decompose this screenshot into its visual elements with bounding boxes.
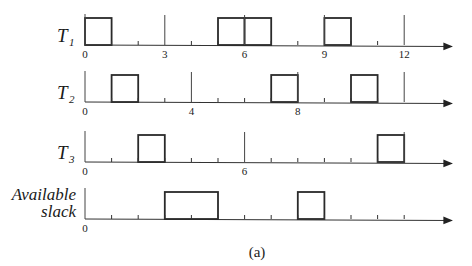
execution-box: [271, 75, 298, 102]
timeline-rows: 036912048060: [82, 14, 452, 234]
tick-label: 3: [162, 48, 168, 60]
svg-text:T: T: [57, 25, 69, 46]
row-label-t2: T 2: [57, 82, 75, 105]
tick-label: 0: [82, 48, 88, 60]
execution-box: [85, 18, 112, 45]
figure-caption: (a): [249, 244, 266, 261]
execution-box: [324, 18, 351, 45]
tick-label: 0: [82, 222, 88, 234]
tick-label: 0: [82, 165, 88, 177]
row-label-t3: T 3: [57, 142, 75, 165]
tick-label: 12: [399, 48, 410, 60]
tick-label: 9: [322, 48, 328, 60]
tick-label: 6: [242, 48, 248, 60]
time-axis: [85, 219, 452, 221]
row-label-t1: T 1: [57, 25, 75, 48]
execution-box: [138, 135, 165, 162]
row-label-available-slack: Available slack: [11, 185, 77, 221]
timeline-t2: 048: [82, 71, 452, 117]
execution-box: [351, 75, 378, 102]
tick-label: 4: [189, 105, 195, 117]
timeline-t1: 036912: [82, 14, 452, 60]
tick-label: 8: [295, 105, 301, 117]
timeline-t3: 06: [82, 131, 452, 177]
svg-text:2: 2: [69, 93, 75, 105]
execution-box: [298, 192, 325, 219]
timeline-diagram: T 1 T 2 T 3 Available slack 036912048060…: [0, 0, 472, 266]
svg-text:slack: slack: [41, 202, 76, 221]
timeline-slack: 0: [82, 188, 452, 234]
execution-box: [245, 18, 272, 45]
execution-box: [112, 75, 139, 102]
execution-box: [165, 192, 218, 219]
tick-label: 0: [82, 105, 88, 117]
tick-label: 6: [242, 165, 248, 177]
svg-text:T: T: [57, 82, 69, 103]
time-axis: [85, 102, 452, 104]
svg-text:3: 3: [68, 153, 75, 165]
svg-text:T: T: [57, 142, 69, 163]
execution-box: [218, 18, 245, 45]
svg-text:1: 1: [69, 36, 75, 48]
execution-box: [378, 135, 405, 162]
